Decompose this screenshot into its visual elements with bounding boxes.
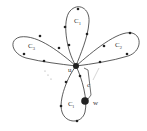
loop-c1-vertices xyxy=(64,8,89,47)
label-c2: C2 xyxy=(115,41,122,50)
vertex-w xyxy=(81,97,89,105)
label-c1: C1 xyxy=(74,17,81,26)
label-c: c xyxy=(87,81,90,89)
loop-c1 xyxy=(66,7,89,66)
loop-c2 xyxy=(76,33,139,66)
loop-cl-vertices xyxy=(60,75,82,123)
diagram-svg: C1 C2 C3 Cl u w c xyxy=(0,0,147,131)
label-cl: Cl xyxy=(68,100,75,109)
label-w: w xyxy=(93,99,99,107)
faint-mark xyxy=(93,68,99,80)
loop-cl xyxy=(61,66,86,121)
label-c3: C3 xyxy=(28,42,36,51)
ellipsis-dots xyxy=(44,70,51,79)
center-vertex-u xyxy=(73,63,79,69)
label-u: u xyxy=(68,66,72,74)
flower-graph-diagram: C1 C2 C3 Cl u w c xyxy=(0,0,147,131)
